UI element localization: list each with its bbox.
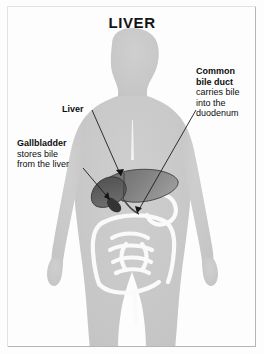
callout-bile-duct-line-1: carries bile bbox=[196, 87, 240, 98]
callout-bile-duct: Common bile duct carries bile into the d… bbox=[196, 66, 240, 119]
liver-diagram-figure: LIVER bbox=[0, 0, 264, 354]
callout-liver-heading: Liver bbox=[62, 104, 84, 115]
callout-bile-duct-line-3: duodenum bbox=[196, 108, 240, 119]
anatomy-illustration bbox=[0, 0, 264, 354]
callout-bile-duct-heading-2: bile duct bbox=[196, 77, 240, 88]
callout-bile-duct-heading-1: Common bbox=[196, 66, 240, 77]
callout-bile-duct-line-2: into the bbox=[196, 98, 240, 109]
callout-gallbladder-line-2: from the liver bbox=[17, 159, 69, 170]
callout-gallbladder-heading: Gallbladder bbox=[17, 138, 69, 149]
callout-gallbladder: Gallbladder stores bile from the liver bbox=[17, 138, 69, 170]
callout-gallbladder-line-1: stores bile bbox=[17, 149, 69, 160]
callout-liver: Liver bbox=[62, 104, 84, 115]
